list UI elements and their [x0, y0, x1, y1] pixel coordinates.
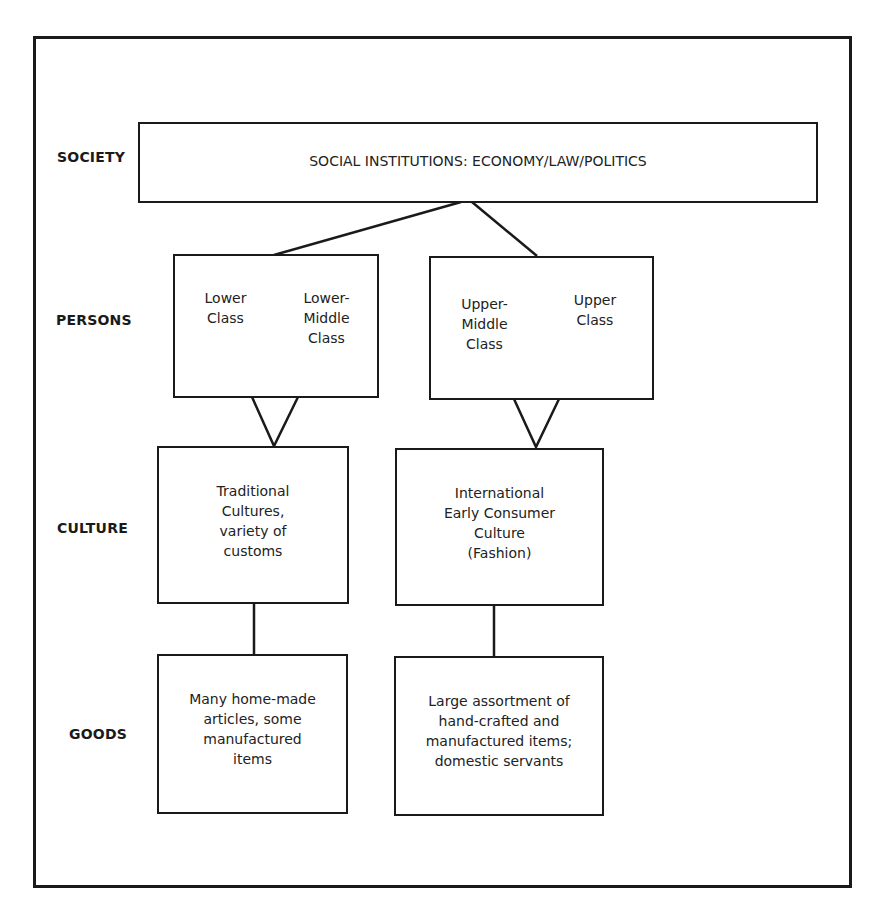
goods-left-text: Many home-made articles, some manufactur… [159, 689, 346, 769]
persons-upper-class: Upper Class [538, 290, 652, 330]
persons-upper-middle-class: Upper- Middle Class [431, 294, 538, 354]
culture-left-text: Traditional Cultures, variety of customs [159, 481, 347, 561]
persons-lower-middle-class: Lower- Middle Class [276, 288, 377, 348]
goods-right-text: Large assortment of hand-crafted and man… [396, 691, 602, 771]
culture-box-right: International Early Consumer Culture (Fa… [395, 448, 604, 606]
society-box: SOCIAL INSTITUTIONS: ECONOMY/LAW/POLITIC… [138, 122, 818, 203]
persons-box-right: Upper- Middle Class Upper Class [429, 256, 654, 400]
persons-lower-class: Lower Class [175, 288, 276, 328]
culture-right-text: International Early Consumer Culture (Fa… [397, 483, 602, 563]
culture-box-left: Traditional Cultures, variety of customs [157, 446, 349, 604]
goods-box-right: Large assortment of hand-crafted and man… [394, 656, 604, 816]
goods-box-left: Many home-made articles, some manufactur… [157, 654, 348, 814]
society-text: SOCIAL INSTITUTIONS: ECONOMY/LAW/POLITIC… [140, 151, 816, 171]
persons-box-left: Lower Class Lower- Middle Class [173, 254, 379, 398]
